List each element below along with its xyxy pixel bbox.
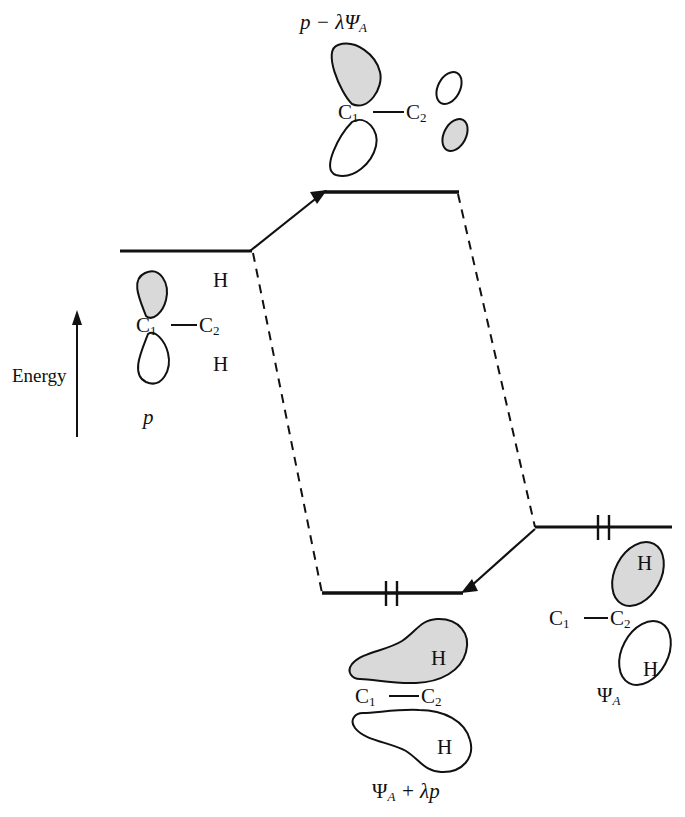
correlation-p-to-bonding xyxy=(253,253,322,593)
top-orbital-label: p − λΨA xyxy=(300,10,367,36)
correlation-p-to-antibonding xyxy=(250,190,327,251)
bottom-orbital-label: ΨA + λp xyxy=(372,779,440,805)
top-orbital-atom-c1: C1 xyxy=(338,100,359,126)
right-orbital-hydrogen-top: H xyxy=(637,551,652,576)
orbital-energy-diagram: p − λΨA C1 C2 C1 C2 H H p Energy C1 C2 H… xyxy=(0,0,685,817)
top-orbital-atom-c2: C2 xyxy=(406,100,427,126)
bottom-orbital-hydrogen-bottom: H xyxy=(437,735,452,760)
left-orbital-atom-c1: C1 xyxy=(136,313,157,339)
correlation-psi-to-bonding xyxy=(461,529,535,593)
left-orbital-atom-c2: C2 xyxy=(199,313,220,339)
lobe-empty-lower-left xyxy=(330,120,377,176)
energy-axis-label: Energy xyxy=(12,365,67,387)
orbital-right-lobes xyxy=(584,533,681,694)
energy-axis xyxy=(72,310,82,437)
lobe-shaded-upper-bonding xyxy=(350,619,468,683)
lobe-shaded-upper-left xyxy=(332,44,381,106)
left-orbital-hydrogen-top: H xyxy=(213,268,228,293)
right-orbital-atom-c1: C1 xyxy=(549,606,570,632)
correlation-psi-to-antibonding xyxy=(458,194,535,527)
lobe-empty-lower-bonding xyxy=(353,710,472,772)
bottom-orbital-atom-c1: C1 xyxy=(355,684,376,710)
left-orbital-hydrogen-bottom: H xyxy=(213,352,228,377)
lobe-shaded-above-c1 xyxy=(137,271,167,317)
right-orbital-label: ΨA xyxy=(597,683,620,709)
left-orbital-label: p xyxy=(143,405,154,430)
lobe-shaded-lower-right xyxy=(437,115,472,155)
lobe-empty-below-c1 xyxy=(138,333,169,384)
bottom-orbital-hydrogen-top: H xyxy=(431,646,446,671)
lobe-empty-upper-right xyxy=(431,68,466,108)
bottom-orbital-atom-c2: C2 xyxy=(421,684,442,710)
right-orbital-hydrogen-bottom: H xyxy=(643,657,658,682)
right-orbital-atom-c2: C2 xyxy=(610,606,631,632)
